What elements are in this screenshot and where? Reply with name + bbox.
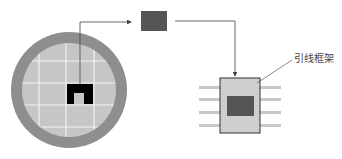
- lead-right: [260, 124, 281, 127]
- wafer: [10, 30, 130, 150]
- lead-left: [199, 98, 220, 101]
- separated-die: [141, 11, 167, 31]
- lead-left: [199, 124, 220, 127]
- lead-frame-label: 引线框架: [294, 50, 334, 65]
- lead-left: [199, 111, 220, 114]
- package-die: [227, 96, 254, 116]
- lead-right: [260, 86, 281, 89]
- diagram-canvas: [0, 0, 342, 159]
- arrow-die-to-package: [175, 21, 235, 76]
- lead-right: [260, 111, 281, 114]
- lead-left: [199, 86, 220, 89]
- label-leader-line: [257, 60, 292, 83]
- lead-right: [260, 98, 281, 101]
